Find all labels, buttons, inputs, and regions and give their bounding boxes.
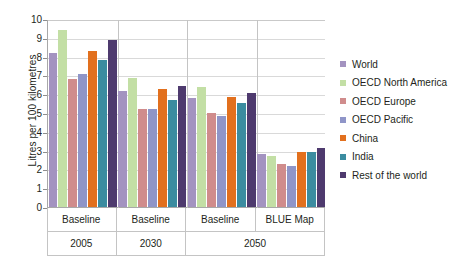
x-axis-year-label: 2030 [117, 231, 187, 255]
bar [118, 91, 127, 207]
bar-chart: Litres per 100 kilometres 012345678910 B… [0, 0, 467, 266]
bar [49, 53, 58, 207]
legend-item[interactable]: Rest of the world [340, 166, 467, 185]
y-axis-tick-label: 8 [16, 52, 42, 63]
y-axis-tick-label: 1 [16, 183, 42, 194]
y-axis-tick-label: 0 [16, 202, 42, 213]
legend-swatch-icon [340, 172, 346, 178]
legend-item-label: OECD Pacific [352, 114, 413, 125]
bar [267, 156, 276, 207]
x-axis-scenario-labels: BaselineBaselineBaselineBLUE Map [47, 208, 325, 231]
y-axis-tick-label: 5 [16, 108, 42, 119]
plot-area [47, 20, 325, 208]
legend-item[interactable]: India [340, 148, 467, 167]
x-axis-year-label: 2005 [47, 231, 117, 255]
bar [158, 89, 167, 207]
y-axis-tick-label: 7 [16, 70, 42, 81]
x-axis-scenario-label: Baseline [117, 208, 187, 231]
legend-item-label: Rest of the world [352, 170, 427, 181]
bar [178, 86, 187, 207]
bar [237, 103, 246, 207]
legend-item-label: World [352, 59, 378, 70]
bar-group [187, 20, 257, 207]
bar [207, 113, 216, 207]
legend-item-label: OECD Europe [352, 96, 416, 107]
x-axis-scenario-label: Baseline [186, 208, 256, 231]
y-axis-tick-label: 2 [16, 164, 42, 175]
legend: WorldOECD North AmericaOECD EuropeOECD P… [340, 55, 467, 185]
bar [257, 154, 266, 207]
bar [108, 40, 117, 207]
bar-groups [48, 20, 325, 207]
legend-item[interactable]: China [340, 129, 467, 148]
legend-swatch-icon [340, 80, 346, 86]
y-axis-tick-label: 4 [16, 127, 42, 138]
y-axis-tick-label: 9 [16, 33, 42, 44]
bar [227, 97, 236, 207]
bar [98, 60, 107, 207]
y-axis-tick-label: 6 [16, 89, 42, 100]
bar [197, 87, 206, 207]
x-axis-scenario-label: BLUE Map [256, 208, 326, 231]
y-axis-tick-label: 10 [16, 14, 42, 25]
axis-tier-edge [47, 208, 48, 231]
y-axis-tick-label: 3 [16, 146, 42, 157]
legend-item-label: OECD North America [352, 77, 447, 88]
bar-group [118, 20, 188, 207]
bar [168, 100, 177, 207]
x-axis-year-labels: 200520302050 [47, 231, 325, 255]
bar [277, 164, 286, 207]
bar [78, 74, 87, 207]
legend-item[interactable]: World [340, 55, 467, 74]
bar [297, 152, 306, 207]
bar [247, 93, 256, 207]
bar [128, 78, 137, 207]
legend-item-label: China [352, 133, 378, 144]
bar [68, 79, 77, 207]
bar [307, 152, 316, 207]
legend-swatch-icon [340, 154, 346, 160]
bar [88, 51, 97, 207]
legend-item[interactable]: OECD Pacific [340, 111, 467, 130]
axis-tier-edge [47, 231, 48, 255]
x-axis-year-label: 2050 [186, 231, 325, 255]
bar [317, 148, 326, 207]
bar [287, 166, 296, 207]
legend-item-label: India [352, 151, 374, 162]
bar [138, 109, 147, 207]
legend-swatch-icon [340, 61, 346, 67]
legend-item[interactable]: OECD Europe [340, 92, 467, 111]
bar [188, 98, 197, 207]
legend-swatch-icon [340, 98, 346, 104]
legend-swatch-icon [340, 135, 346, 141]
bar [58, 30, 67, 207]
bar [148, 109, 157, 207]
x-axis-scenario-label: Baseline [47, 208, 117, 231]
bar-group [48, 20, 118, 207]
category-divider-lower [47, 255, 325, 256]
legend-swatch-icon [340, 117, 346, 123]
bar-group [257, 20, 327, 207]
legend-item[interactable]: OECD North America [340, 74, 467, 93]
bar [217, 116, 226, 207]
